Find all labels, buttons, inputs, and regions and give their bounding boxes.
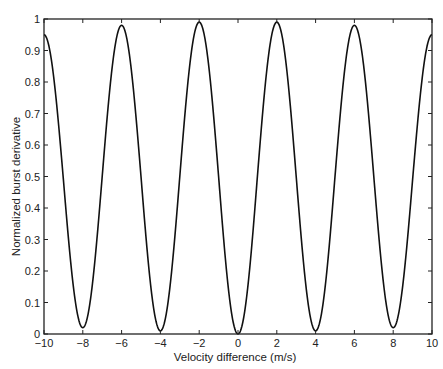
data-line <box>44 22 432 334</box>
chart: −10−8−6−4−20246810 00.10.20.30.40.50.60.… <box>0 0 443 369</box>
y-tick-label: 0.6 <box>25 139 40 151</box>
y-tick-label: 0.8 <box>25 76 40 88</box>
y-tick-label: 0.2 <box>25 265 40 277</box>
y-axis-label: Normalized burst derivative <box>10 117 22 256</box>
x-tick-label: 6 <box>351 337 357 349</box>
y-tick-label: 0.4 <box>25 202 40 214</box>
y-tick-label: 0 <box>34 328 40 340</box>
y-tick-label: 0.9 <box>25 45 40 57</box>
x-tick-label: 0 <box>235 337 241 349</box>
x-tick-label: −6 <box>115 337 128 349</box>
y-tick-label: 0.7 <box>25 108 40 120</box>
x-tick-label: −2 <box>193 337 206 349</box>
x-tick-label: 2 <box>274 337 280 349</box>
x-tick-label: 8 <box>390 337 396 349</box>
x-tick-label: 10 <box>426 337 438 349</box>
x-axis-ticks: −10−8−6−4−20246810 <box>35 19 438 349</box>
y-tick-label: 0.5 <box>25 171 40 183</box>
y-tick-label: 0.3 <box>25 234 40 246</box>
x-tick-label: 4 <box>313 337 319 349</box>
x-axis-label: Velocity difference (m/s) <box>174 351 297 363</box>
x-tick-label: −8 <box>77 337 90 349</box>
y-tick-label: 0.1 <box>25 297 40 309</box>
y-tick-label: 1 <box>34 13 40 25</box>
x-tick-label: −4 <box>154 337 167 349</box>
